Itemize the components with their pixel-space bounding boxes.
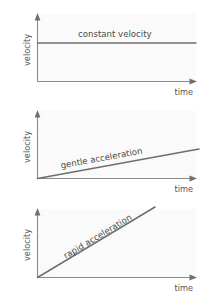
- y-axis-label-1: velocity: [22, 34, 32, 66]
- series-label-constant-velocity: constant velocity: [78, 29, 152, 39]
- chart-gentle-acceleration: velocity time gentle acceleration: [22, 110, 199, 194]
- plot-area-background-1: [37, 14, 196, 81]
- charts-canvas: velocity time constant velocity velocity…: [0, 0, 210, 307]
- y-axis-label-3: velocity: [22, 229, 32, 261]
- x-axis-label-1: time: [175, 87, 194, 97]
- y-axis-label-2: velocity: [22, 131, 32, 163]
- chart-rapid-acceleration: velocity time rapid acceleration: [22, 207, 197, 293]
- x-axis-label-3: time: [175, 283, 194, 293]
- x-axis-label-2: time: [175, 184, 194, 194]
- velocity-time-graphs-figure: velocity time constant velocity velocity…: [0, 0, 210, 307]
- chart-constant-velocity: velocity time constant velocity: [22, 13, 197, 97]
